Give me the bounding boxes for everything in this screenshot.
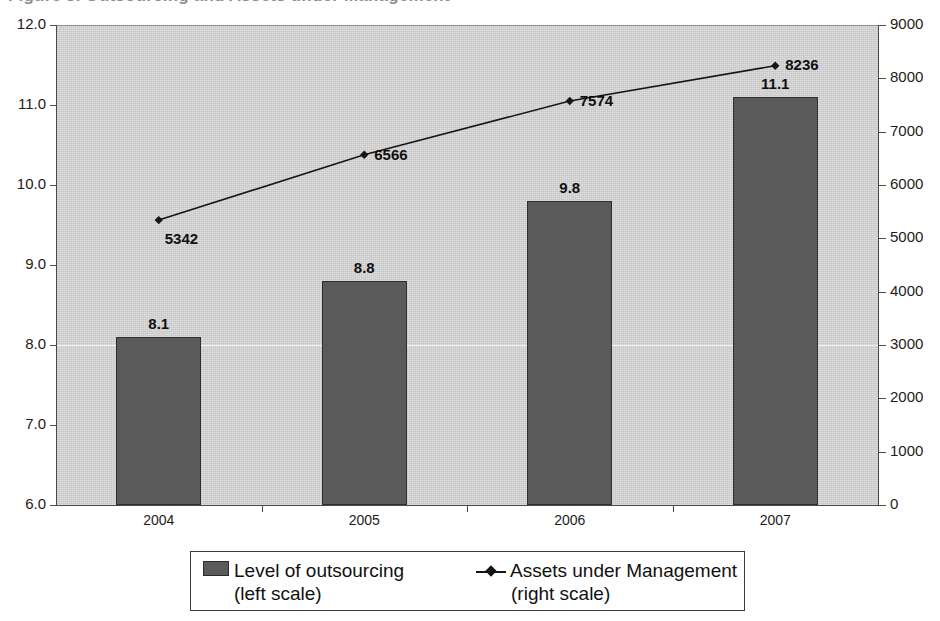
right-axis-tick [879,185,886,186]
right-axis-tick [879,132,886,133]
legend-sublabel-outsourcing: (left scale) [234,583,322,604]
right-axis-tick [879,25,886,26]
assets-line-markers [155,62,780,225]
legend-sublabel-assets-row: (right scale) [511,583,610,605]
left-axis-tick [50,505,57,506]
line-point-value-label: 5342 [165,230,198,247]
left-axis-tick-label: 6.0 [25,495,46,512]
x-axis-tick [673,505,674,512]
right-axis-tick-label: 6000 [890,175,923,192]
right-axis-tick-label: 7000 [890,122,923,139]
line-point-marker [360,151,368,159]
right-axis-tick [879,345,886,346]
legend-sublabel-outsourcing-row: (left scale) [234,583,322,605]
left-axis-tick-label: 9.0 [25,255,46,272]
right-axis-tick [879,505,886,506]
line-point-value-label: 7574 [580,92,613,109]
legend-item-outsourcing: Level of outsourcing [203,560,404,582]
line-point-marker [566,97,574,105]
x-axis-tick-label: 2004 [143,512,174,528]
left-axis-tick-label: 11.0 [18,95,46,112]
legend-swatch-box-icon [203,561,229,576]
line-point-marker [771,62,779,70]
right-axis-tick-label: 2000 [890,388,923,405]
legend-label-outsourcing: Level of outsourcing [234,560,404,581]
right-axis-tick-label: 3000 [890,335,923,352]
legend-sublabel-assets: (right scale) [511,583,610,604]
left-axis-tick-label: 8.0 [25,335,46,352]
line-point-marker [155,216,163,224]
x-axis-tick [262,505,263,512]
right-axis-tick [879,398,886,399]
right-axis-tick [879,292,886,293]
right-axis-tick-label: 0 [890,495,898,512]
dual-axis-combo-chart: 6.07.08.09.010.011.012.0 010002000300040… [0,0,940,621]
x-axis-tick-label: 2007 [760,512,791,528]
x-axis-tick-label: 2006 [554,512,585,528]
legend-line-marker-icon [476,566,506,578]
left-axis-tick-label: 7.0 [25,415,46,432]
line-point-value-label: 6566 [374,146,407,163]
right-axis-tick [879,452,886,453]
line-point-value-label: 8236 [785,56,818,73]
legend-label-assets: Assets under Management [510,560,737,581]
left-axis-tick-label: 12.0 [17,15,46,32]
chart-legend: Level of outsourcing (left scale) Assets… [190,551,745,611]
assets-line-path [159,66,776,220]
right-axis-tick-label: 4000 [890,282,923,299]
line-series-layer [56,25,878,505]
right-axis-tick-label: 8000 [890,68,923,85]
legend-item-assets: Assets under Management [476,560,737,582]
left-axis-tick-label: 10.0 [17,175,46,192]
right-axis-tick-label: 1000 [890,442,923,459]
x-axis-tick-label: 2005 [349,512,380,528]
x-axis-tick [467,505,468,512]
right-axis-tick-label: 9000 [890,15,923,32]
right-axis-spine [878,25,879,506]
right-axis-tick [879,78,886,79]
right-axis-tick-label: 5000 [890,228,923,245]
right-axis-tick [879,238,886,239]
